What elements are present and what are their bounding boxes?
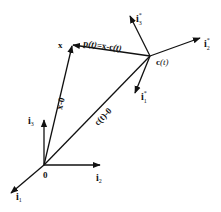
label-i1-star: i*1 [141,90,147,104]
axis-i1-arrow [11,165,44,193]
label-i3-star: i*3 [136,12,142,26]
axis-i2-star-arrow [150,38,200,56]
vector-p-label: p(t)=x-c(t) [83,38,123,53]
label-i2-star: i*2 [204,37,210,51]
point-c-label: c(t) [156,57,169,67]
axis-i1-star-arrow [135,56,150,93]
label-i1: i1 [16,191,22,203]
origin-label: 0 [43,170,48,180]
vector-x-minus-0-label: x-0 [54,96,67,110]
vector-c-minus-0-label: c(t)-0 [92,105,114,127]
label-i2: i2 [96,172,102,184]
point-x-label: x [58,40,63,50]
diagram-canvas: 0 i1 i2 i3 x p(t)=x-c(t) c(t) x-0 c(t)-0… [0,0,221,212]
label-i3: i3 [28,115,34,127]
